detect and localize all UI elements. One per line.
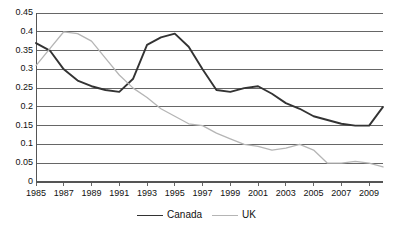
- legend-item-canada[interactable]: Canada: [137, 210, 202, 220]
- legend-swatch-icon: [212, 215, 238, 216]
- x-axis-tick-label: 1987: [54, 189, 74, 198]
- x-axis-tick-label: 2001: [248, 189, 268, 198]
- line-chart: 00.050.10.150.20.250.30.350.40.45 198519…: [0, 0, 393, 229]
- chart-legend: CanadaUK: [0, 207, 393, 223]
- legend-label: UK: [242, 210, 256, 220]
- legend-item-uk[interactable]: UK: [212, 210, 256, 220]
- x-axis-tick-label: 1997: [193, 189, 213, 198]
- x-axis-tick-label: 1999: [220, 189, 240, 198]
- x-axis-tick-label: 1989: [82, 189, 102, 198]
- x-axis-tick-label: 1991: [109, 189, 129, 198]
- x-axis-tick-label: 1995: [165, 189, 185, 198]
- x-axis-tick-label: 2005: [304, 189, 324, 198]
- legend-swatch-icon: [137, 215, 163, 216]
- x-axis: 1985198719891991199319951997199920012003…: [0, 0, 393, 229]
- x-axis-tick-label: 1985: [26, 189, 46, 198]
- x-axis-tick-label: 1993: [137, 189, 157, 198]
- x-axis-tick-label: 2009: [359, 189, 379, 198]
- x-axis-tick-label: 2007: [331, 189, 351, 198]
- x-axis-tick-label: 2003: [276, 189, 296, 198]
- legend-label: Canada: [167, 210, 202, 220]
